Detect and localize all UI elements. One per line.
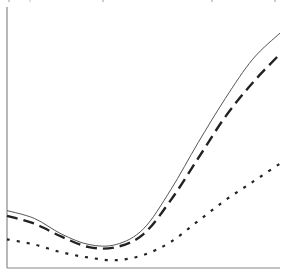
series-line-dashed [7, 54, 280, 249]
series-layer [7, 33, 280, 260]
series-line-dotted [7, 164, 280, 261]
series-line-solid [7, 33, 280, 246]
top-clipped-tick-marks [8, 0, 276, 2]
line-chart [0, 0, 285, 272]
